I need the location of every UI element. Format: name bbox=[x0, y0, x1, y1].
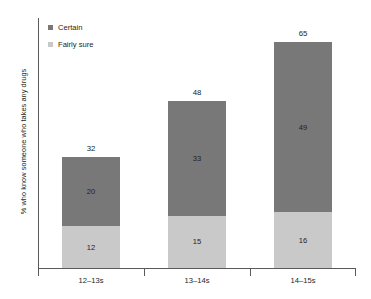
x-axis-tick bbox=[250, 269, 251, 276]
bar-segment-certain: 33 bbox=[168, 101, 226, 216]
bar-segment-value: 12 bbox=[87, 243, 95, 252]
bar-stack: 49 16 bbox=[274, 42, 332, 268]
bar-segment-value: 16 bbox=[299, 236, 307, 245]
bar-total-label: 32 bbox=[62, 144, 120, 153]
x-axis-line bbox=[38, 268, 356, 269]
x-axis-tick bbox=[355, 269, 356, 276]
bar-segment-fairly-sure: 16 bbox=[274, 212, 332, 268]
bar-segment-certain: 20 bbox=[62, 157, 120, 226]
bar-stack: 20 12 bbox=[62, 157, 120, 268]
bar-segment-value: 20 bbox=[87, 187, 95, 196]
bar-segment-fairly-sure: 15 bbox=[168, 216, 226, 268]
y-axis-title-text: % who know someone who takes any drugs bbox=[20, 69, 29, 215]
bar-total-label: 65 bbox=[274, 29, 332, 38]
bar-segment-value: 33 bbox=[193, 154, 201, 163]
x-axis-label: 12–13s bbox=[38, 276, 144, 285]
bar-segment-value: 15 bbox=[193, 237, 201, 246]
bar-segment-value: 49 bbox=[299, 123, 307, 132]
bar-segment-certain: 49 bbox=[274, 42, 332, 212]
bar-segment-fairly-sure: 12 bbox=[62, 226, 120, 268]
x-axis-tick bbox=[144, 269, 145, 276]
bar-total-label: 48 bbox=[168, 88, 226, 97]
bar-stack: 33 15 bbox=[168, 101, 226, 268]
x-axis-label: 13–14s bbox=[144, 276, 250, 285]
stacked-bar-chart: % who know someone who takes any drugs C… bbox=[0, 0, 371, 299]
x-axis-tick bbox=[38, 269, 39, 276]
x-axis-label: 14–15s bbox=[250, 276, 356, 285]
y-axis-title: % who know someone who takes any drugs bbox=[16, 0, 32, 299]
plot-area: 32 20 12 48 33 15 65 bbox=[38, 18, 356, 268]
